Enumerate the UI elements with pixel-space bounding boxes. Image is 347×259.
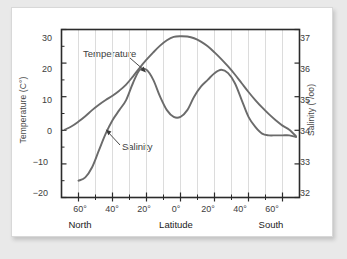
chart-root: Temperature (C°) Salinity (°/oo) 30 20 1… (12, 8, 334, 238)
figure-card: Temperature (C°) Salinity (°/oo) 30 20 1… (11, 7, 333, 237)
gridlines (79, 30, 283, 198)
salinity-curve (79, 68, 297, 180)
plot-area (12, 8, 334, 238)
